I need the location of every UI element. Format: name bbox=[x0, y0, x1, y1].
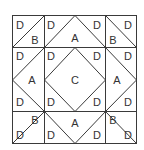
label-tm-d2: D bbox=[93, 19, 101, 31]
label-tr-b: B bbox=[109, 34, 116, 46]
label-mr-d1: D bbox=[124, 50, 132, 62]
label-c-d2: D bbox=[93, 50, 101, 62]
label-bl-d: D bbox=[16, 129, 24, 141]
label-bm-a: A bbox=[71, 117, 79, 129]
label-c-d3: D bbox=[47, 96, 55, 108]
label-ml-a: A bbox=[28, 74, 36, 86]
label-mr-a: A bbox=[113, 74, 121, 86]
label-br-b: B bbox=[109, 114, 116, 126]
label-tr-d: D bbox=[124, 19, 132, 31]
label-ml-d2: D bbox=[16, 96, 24, 108]
label-br-d: D bbox=[124, 129, 132, 141]
label-tm-d1: D bbox=[47, 19, 55, 31]
label-bl-b: B bbox=[31, 114, 38, 126]
quilt-block-diagram: D B D A D B D D A D D C D D D D A D B D … bbox=[0, 0, 144, 150]
label-tl-d: D bbox=[16, 19, 24, 31]
label-tl-b: B bbox=[31, 34, 38, 46]
label-ml-d1: D bbox=[16, 50, 24, 62]
label-tm-a: A bbox=[71, 32, 79, 44]
label-c-d1: D bbox=[47, 50, 55, 62]
label-bm-d2: D bbox=[93, 129, 101, 141]
piece-labels: D B D A D B D D A D D C D D D D A D B D … bbox=[16, 19, 132, 141]
label-mr-d2: D bbox=[124, 96, 132, 108]
label-bm-d1: D bbox=[47, 129, 55, 141]
label-c-d4: D bbox=[93, 96, 101, 108]
label-c-c: C bbox=[71, 74, 79, 86]
